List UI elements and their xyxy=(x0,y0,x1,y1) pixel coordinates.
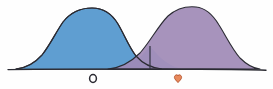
baseline-axis xyxy=(8,69,266,70)
distribution-chart-canvas: o heart xyxy=(0,0,273,89)
distribution-figure: o heart xyxy=(0,0,273,89)
